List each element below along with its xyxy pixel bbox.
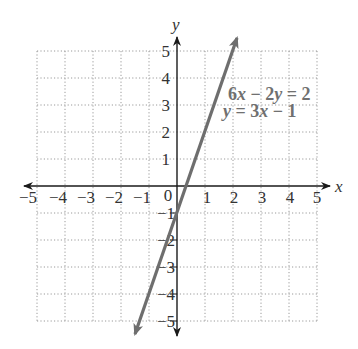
x-tick-p5: 5 bbox=[313, 188, 322, 207]
line-graph: x y −5 −4 −3 −2 −1 0 1 2 3 4 5 5 4 3 2 1… bbox=[0, 0, 358, 349]
y-tick-p5: 5 bbox=[162, 42, 171, 61]
x-tick-n5: −5 bbox=[19, 188, 37, 207]
x-tick-p1: 1 bbox=[203, 188, 212, 207]
y-tick-p4: 4 bbox=[162, 69, 171, 88]
x-tick-n3: −3 bbox=[77, 188, 95, 207]
y-tick-n5: −5 bbox=[157, 312, 175, 331]
y-tick-p3: 3 bbox=[162, 96, 171, 115]
y-tick-n4: −4 bbox=[157, 285, 176, 304]
x-tick-p3: 3 bbox=[258, 188, 267, 207]
origin-label: 0 bbox=[164, 186, 173, 205]
y-tick-p2: 2 bbox=[162, 123, 171, 142]
x-tick-n2: −2 bbox=[105, 188, 123, 207]
y-tick-n1: −1 bbox=[157, 204, 175, 223]
x-tick-p4: 4 bbox=[286, 188, 295, 207]
x-tick-n1: −1 bbox=[133, 188, 151, 207]
y-axis-label: y bbox=[170, 15, 180, 34]
x-tick-p2: 2 bbox=[230, 188, 239, 207]
x-tick-n4: −4 bbox=[49, 188, 68, 207]
equation-slope-intercept-form: y = 3x − 1 bbox=[221, 101, 297, 121]
y-tick-p1: 1 bbox=[162, 150, 171, 169]
x-axis-label: x bbox=[334, 177, 343, 196]
